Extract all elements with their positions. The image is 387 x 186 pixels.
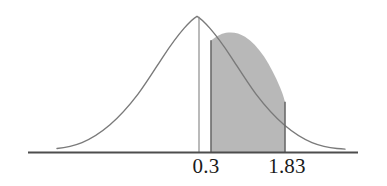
tick-label-upper-bound: 1.83: [268, 156, 306, 177]
normal-distribution-figure: 0.3 1.83: [0, 0, 387, 186]
shaded-area-region: [211, 32, 285, 152]
bell-curve-line: [57, 16, 345, 149]
tick-label-lower-bound: 0.3: [193, 156, 220, 177]
